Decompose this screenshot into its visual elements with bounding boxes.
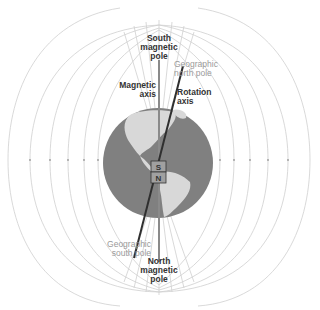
south-magnetic-pole-label: South magnetic pole bbox=[130, 34, 188, 61]
rotation-axis-label: Rotation axis bbox=[177, 88, 221, 106]
north-magnetic-pole-label: North magnetic pole bbox=[130, 257, 188, 284]
magnet-south-label: S bbox=[152, 163, 165, 172]
magnetic-axis-label: Magnetic axis bbox=[112, 81, 156, 99]
geographic-north-pole-label: Geographic north pole bbox=[174, 60, 234, 78]
geographic-south-pole-label: Geographic south pole bbox=[97, 240, 151, 258]
magnet-north-label: N bbox=[152, 174, 165, 183]
